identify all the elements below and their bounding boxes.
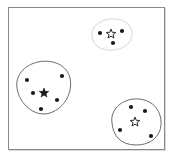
- cluster-bottom-right: [112, 99, 161, 145]
- cluster-top-point-2: [111, 41, 115, 45]
- cluster-left-boundary: [17, 61, 71, 114]
- cluster-top: [92, 19, 132, 50]
- cluster-bottom-right-point-2: [118, 128, 122, 132]
- cluster-group: [17, 19, 161, 145]
- cluster-top-point-1: [120, 29, 124, 33]
- figure-stage: [0, 0, 176, 162]
- cluster-left: [17, 61, 71, 114]
- cluster-scatter-plot: [0, 0, 176, 162]
- cluster-bottom-right-point-3: [149, 134, 153, 138]
- centroid-top-star-icon: [106, 29, 116, 38]
- cluster-left-point-2: [60, 74, 64, 78]
- cluster-left-point-1: [31, 91, 35, 95]
- centroid-bottom-right-star-icon: [130, 117, 140, 126]
- cluster-left-point-4: [39, 107, 43, 111]
- centroid-left-star-icon: [39, 88, 49, 97]
- cluster-left-point-3: [55, 98, 59, 102]
- cluster-left-point-0: [25, 78, 29, 82]
- cluster-top-point-0: [98, 31, 102, 35]
- cluster-bottom-right-point-1: [143, 109, 147, 113]
- cluster-bottom-right-point-0: [129, 105, 133, 109]
